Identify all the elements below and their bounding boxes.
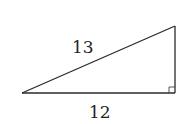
hypotenuse-label: 13 [72,37,94,57]
triangle-diagram: 13 12 [0,0,186,124]
hypotenuse-edge [22,26,175,93]
base-label: 12 [89,102,111,122]
right-angle-marker-icon [169,87,175,93]
